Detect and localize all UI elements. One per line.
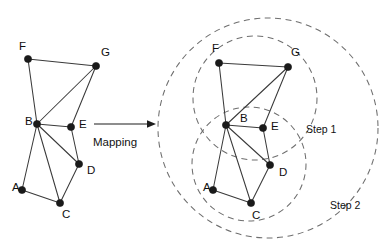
- edge-B-E: [37, 124, 71, 127]
- node-label-A: A: [203, 181, 211, 193]
- node-B[interactable]: [222, 121, 229, 128]
- node-label-G: G: [101, 46, 110, 58]
- edge-F-G: [28, 59, 96, 66]
- edge-G-B: [226, 67, 288, 125]
- node-D[interactable]: [75, 160, 82, 167]
- edge-B-E: [226, 125, 263, 128]
- figure-canvas: FGBEDACFGBEDACStep 1Step 2Mapping: [0, 0, 380, 244]
- node-label-E: E: [271, 120, 279, 132]
- edge-B-A: [22, 124, 37, 190]
- node-label-D: D: [279, 166, 287, 178]
- node-E[interactable]: [259, 124, 266, 131]
- node-label-D: D: [87, 164, 95, 176]
- node-label-F: F: [19, 40, 26, 52]
- edge-D-C: [60, 164, 79, 203]
- node-G[interactable]: [284, 63, 291, 70]
- node-G[interactable]: [92, 62, 99, 69]
- edge-F-G: [219, 63, 288, 67]
- mapped-graph: FGBEDAC: [203, 42, 300, 221]
- graph-mapping-figure: FGBEDACFGBEDACStep 1Step 2Mapping Graph …: [0, 0, 380, 244]
- node-label-B: B: [25, 115, 33, 127]
- node-label-F: F: [212, 42, 219, 54]
- node-label-B: B: [240, 112, 248, 124]
- edge-B-A: [213, 125, 226, 190]
- node-label-A: A: [12, 181, 20, 193]
- node-F[interactable]: [24, 55, 31, 62]
- mapping-label: Mapping: [93, 136, 137, 148]
- step-1-label: Step 1: [306, 123, 337, 135]
- right-arrow-icon: [147, 120, 156, 128]
- node-E[interactable]: [67, 123, 74, 130]
- node-F[interactable]: [215, 59, 222, 66]
- edge-F-B: [219, 63, 226, 125]
- mapping-arrow-group: Mapping: [93, 120, 156, 148]
- node-C[interactable]: [247, 199, 254, 206]
- source-graph: FGBEDAC: [12, 40, 110, 220]
- node-C[interactable]: [56, 199, 63, 206]
- edge-B-C: [37, 124, 60, 203]
- node-D[interactable]: [266, 161, 273, 168]
- edge-G-B: [37, 66, 96, 124]
- node-B[interactable]: [33, 120, 40, 127]
- edge-A-C: [213, 190, 251, 203]
- edge-D-C: [251, 165, 270, 203]
- node-label-C: C: [252, 209, 260, 221]
- step-2-label: Step 2: [330, 199, 361, 211]
- node-label-C: C: [62, 208, 70, 220]
- node-label-G: G: [291, 46, 300, 58]
- edge-E-D: [71, 127, 79, 164]
- edge-A-C: [22, 190, 60, 203]
- node-label-E: E: [79, 118, 87, 130]
